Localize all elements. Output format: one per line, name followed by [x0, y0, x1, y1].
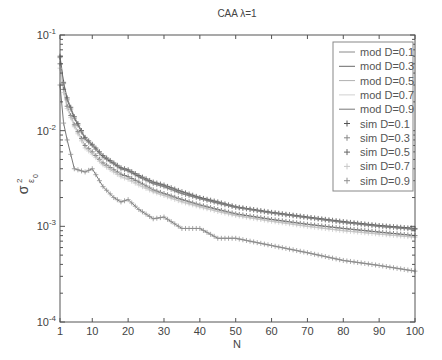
y-axis-label: σ 2 ε 0: [15, 174, 39, 194]
series-marker: [233, 236, 238, 241]
x-tick-label: 40: [194, 325, 206, 337]
legend-item-label: mod D=0.5: [360, 75, 414, 87]
series-marker: [312, 216, 317, 221]
series-marker: [269, 210, 274, 215]
series-marker: [369, 262, 374, 267]
series-marker: [265, 210, 270, 215]
series-marker: [287, 213, 292, 218]
y-tick-label: 10-1: [37, 27, 57, 41]
series-marker: [402, 267, 407, 272]
series-marker: [61, 121, 66, 126]
series-marker: [362, 261, 367, 266]
series-marker: [319, 217, 324, 222]
series-marker: [330, 218, 335, 223]
series-marker: [248, 207, 253, 212]
series-marker: [334, 219, 339, 224]
series-marker: [118, 199, 123, 204]
series-marker: [251, 208, 256, 213]
series-marker: [305, 215, 310, 220]
y-tick-label: 10-4: [37, 314, 57, 328]
series-marker: [161, 215, 166, 220]
series-marker: [237, 237, 242, 242]
series-marker: [323, 254, 328, 259]
series-marker: [165, 217, 170, 222]
series-marker: [337, 219, 342, 224]
series-marker: [97, 178, 102, 183]
series-marker: [405, 268, 410, 273]
series-marker: [377, 263, 382, 268]
chart-title: CAA λ=1: [217, 8, 257, 19]
series-marker: [326, 255, 331, 260]
series-marker: [276, 244, 281, 249]
series-marker: [294, 248, 299, 253]
series-marker: [151, 216, 156, 221]
series-marker: [115, 197, 120, 202]
series-marker: [237, 205, 242, 210]
series-marker: [172, 221, 177, 226]
series-marker: [75, 167, 80, 172]
series-marker: [72, 166, 77, 171]
x-tick-label: 60: [265, 325, 277, 337]
series-marker: [312, 252, 317, 257]
legend-item-label: mod D=0.9: [360, 103, 414, 115]
series-marker: [330, 256, 335, 261]
series-marker: [104, 157, 109, 162]
series-marker: [287, 247, 292, 252]
series-marker: [291, 247, 296, 252]
x-tick-label: 1: [57, 325, 63, 337]
series-marker: [319, 253, 324, 258]
series-marker: [341, 258, 346, 263]
svg-text:ε: ε: [26, 179, 36, 183]
legend-item-label: mod D=0.7: [360, 89, 414, 101]
series-marker: [280, 212, 285, 217]
series-marker: [309, 216, 314, 221]
series-marker: [269, 243, 274, 248]
legend-item-label: sim D=0.3: [360, 132, 410, 144]
series-marker: [348, 259, 353, 264]
series-marker: [255, 208, 260, 213]
x-tick-label: 80: [337, 325, 349, 337]
series-marker: [291, 213, 296, 218]
svg-text:σ: σ: [15, 185, 31, 194]
series-marker: [352, 259, 357, 264]
series-marker: [262, 242, 267, 247]
y-tick-label: 10-2: [37, 123, 57, 137]
series-marker: [147, 214, 152, 219]
series-marker: [240, 237, 245, 242]
svg-text:2: 2: [15, 178, 24, 183]
legend-item-label: sim D=0.7: [360, 160, 410, 172]
series-marker: [273, 244, 278, 249]
series-marker: [298, 214, 303, 219]
legend-item-label: mod D=0.1: [360, 46, 414, 58]
series-marker: [366, 261, 371, 266]
series-marker: [409, 268, 414, 273]
x-tick-label: 50: [230, 325, 242, 337]
x-tick-label: 20: [122, 325, 134, 337]
series-marker: [65, 137, 70, 142]
series-marker: [294, 214, 299, 219]
series-marker: [309, 251, 314, 256]
series-marker: [380, 264, 385, 269]
series-marker: [384, 264, 389, 269]
series-marker: [395, 266, 400, 271]
series-marker: [280, 245, 285, 250]
series-marker: [373, 262, 378, 267]
series-marker: [283, 212, 288, 217]
series-marker: [359, 260, 364, 265]
series-marker: [265, 242, 270, 247]
legend: mod D=0.1mod D=0.3mod D=0.5mod D=0.7mod …: [333, 42, 414, 191]
series-marker: [305, 250, 310, 255]
series-marker: [255, 240, 260, 245]
series-marker: [258, 209, 263, 214]
series-marker: [323, 218, 328, 223]
legend-item-label: sim D=0.5: [360, 146, 410, 158]
series-marker: [301, 215, 306, 220]
series-marker: [283, 246, 288, 251]
series-marker: [158, 215, 163, 220]
series-marker: [169, 219, 174, 224]
x-tick-label: 70: [301, 325, 313, 337]
series-marker: [93, 172, 98, 177]
series-marker: [398, 266, 403, 271]
series-marker: [316, 253, 321, 258]
series-marker: [273, 211, 278, 216]
